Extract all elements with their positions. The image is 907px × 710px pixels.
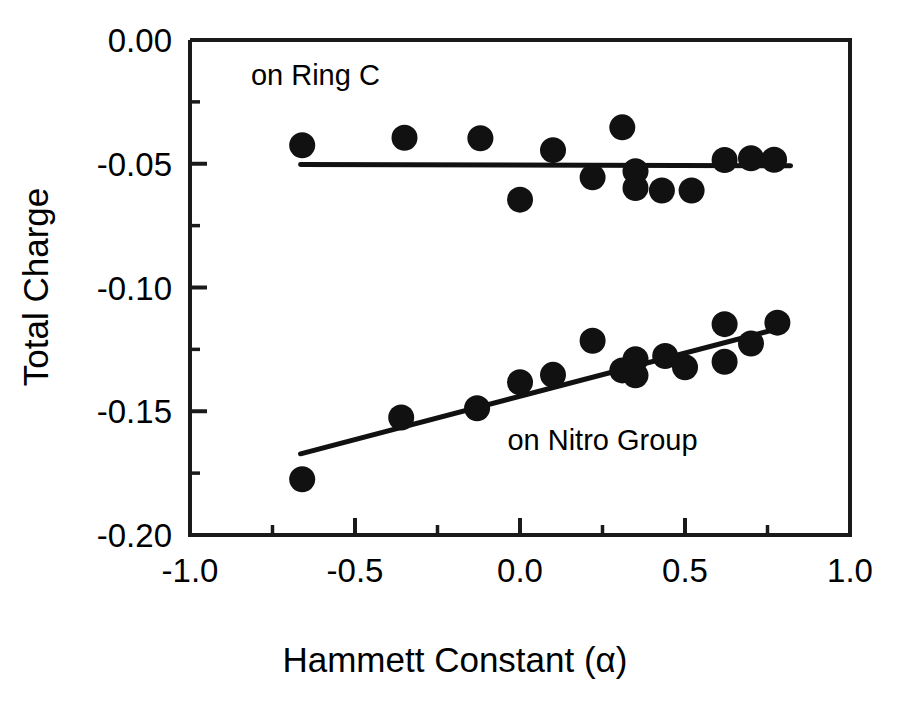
data-points-nitro-group	[289, 310, 790, 493]
data-point	[507, 369, 533, 395]
data-point	[738, 330, 764, 356]
data-point	[540, 362, 566, 388]
data-point	[392, 125, 418, 151]
data-point	[712, 311, 738, 337]
series-label-ring-c: on Ring C	[251, 59, 380, 91]
y-tick-label: 0.00	[108, 22, 172, 59]
x-tick-label: -1.0	[162, 552, 219, 589]
scatter-plot-canvas: -1.0 -0.5 0.0 0.5 1.0 0.00 -0.05 -0.10 -…	[0, 0, 907, 710]
x-axis-title: Hammett Constant (α)	[282, 640, 627, 679]
data-point	[712, 147, 738, 173]
y-tick-label: -0.20	[97, 517, 172, 554]
data-point	[507, 187, 533, 213]
chart-figure: -1.0 -0.5 0.0 0.5 1.0 0.00 -0.05 -0.10 -…	[0, 0, 907, 710]
y-tick-label: -0.05	[97, 146, 172, 183]
axes-box	[190, 40, 850, 535]
data-point	[623, 346, 649, 372]
y-axis-title: Total Charge	[16, 188, 55, 386]
data-point	[623, 175, 649, 201]
data-point	[464, 395, 490, 421]
x-axis-tick-labels: -1.0 -0.5 0.0 0.5 1.0	[162, 552, 873, 589]
data-point	[712, 349, 738, 375]
data-point	[580, 328, 606, 354]
y-tick-label: -0.15	[97, 393, 172, 430]
x-tick-label: 0.0	[497, 552, 543, 589]
plot-frame	[190, 40, 850, 535]
x-tick-label: 0.5	[662, 552, 708, 589]
data-point	[738, 145, 764, 171]
data-point	[672, 354, 698, 380]
data-point	[761, 147, 787, 173]
data-point	[388, 404, 414, 430]
data-point	[609, 114, 635, 140]
x-tick-label: 1.0	[827, 552, 873, 589]
y-tick-label: -0.10	[97, 270, 172, 307]
data-point	[467, 125, 493, 151]
series-label-nitro-group: on Nitro Group	[507, 424, 697, 456]
y-axis-tick-labels: 0.00 -0.05 -0.10 -0.15 -0.20	[97, 22, 172, 554]
data-point	[580, 164, 606, 190]
data-point	[289, 466, 315, 492]
data-point	[649, 177, 675, 203]
data-point	[764, 310, 790, 336]
data-point	[289, 132, 315, 158]
data-point	[540, 137, 566, 163]
x-axis-major-ticks	[190, 518, 850, 535]
y-axis-major-ticks	[190, 40, 207, 535]
data-point	[679, 177, 705, 203]
series-on-nitro-group: on Nitro Group	[289, 310, 790, 493]
series-on-ring-c: on Ring C	[251, 59, 791, 213]
x-tick-label: -0.5	[327, 552, 384, 589]
